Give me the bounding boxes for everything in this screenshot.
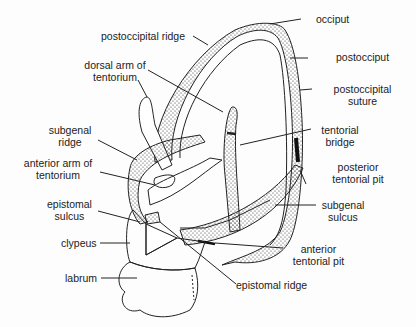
label-line: anterior arm of	[18, 157, 98, 169]
label-line: epistomal	[42, 198, 97, 210]
label-line: tentorial pit	[318, 173, 398, 185]
label-line: bridge	[310, 136, 370, 148]
label-line: tentorium	[80, 71, 150, 83]
label-line: anterior	[281, 243, 356, 255]
label-tentorial-bridge: tentorial bridge	[310, 124, 370, 148]
label-line: sulcus	[318, 211, 368, 223]
label-dorsal-arm-of-tentorium: dorsal arm of tentorium	[80, 59, 150, 83]
label-line: subgenal	[318, 199, 368, 211]
label-postocciput: postocciput	[336, 51, 389, 63]
label-postoccipital-suture: postoccipital suture	[325, 83, 400, 107]
tentorium-diagram: occiput postoccipital ridge postocciput …	[0, 0, 416, 327]
label-postoccipital-ridge: postoccipital ridge	[101, 30, 185, 42]
label-anterior-tentorial-pit: anterior tentorial pit	[281, 243, 356, 267]
label-line: posterior	[318, 161, 398, 173]
label-line: suture	[325, 95, 400, 107]
label-line: tentorium	[18, 169, 98, 181]
label-clypeus: clypeus	[61, 237, 97, 249]
label-subgenal-sulcus: subgenal sulcus	[318, 199, 368, 223]
label-epistomal-sulcus: epistomal sulcus	[42, 198, 97, 222]
label-occiput: occiput	[316, 13, 349, 25]
label-subgenal-ridge: subgenal ridge	[45, 124, 95, 148]
label-anterior-arm-of-tentorium: anterior arm of tentorium	[18, 157, 98, 181]
label-line: ridge	[45, 136, 95, 148]
label-labrum: labrum	[65, 272, 97, 284]
label-epistomal-ridge: epistomal ridge	[236, 279, 307, 291]
label-line: sulcus	[42, 210, 97, 222]
label-line: dorsal arm of	[80, 59, 150, 71]
label-line: subgenal	[45, 124, 95, 136]
label-line: tentorial	[310, 124, 370, 136]
label-line: tentorial pit	[281, 255, 356, 267]
label-line: postoccipital	[325, 83, 400, 95]
label-posterior-tentorial-pit: posterior tentorial pit	[318, 161, 398, 185]
